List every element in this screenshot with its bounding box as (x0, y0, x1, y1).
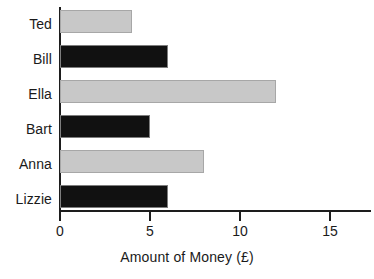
x-tick-mark-15 (329, 212, 331, 221)
category-label-lizzie: Lizzie (0, 192, 52, 206)
x-tick-mark-5 (149, 212, 151, 221)
category-label-bill: Bill (0, 52, 52, 66)
bar-bart[interactable] (60, 115, 150, 138)
bar-anna[interactable] (60, 150, 204, 173)
x-axis-line (59, 210, 371, 212)
plot-area: Ted Bill Ella Bart Anna Lizzie 0 5 (0, 0, 374, 220)
x-tick-mark-0 (59, 212, 61, 221)
category-label-ted: Ted (0, 17, 52, 31)
bar-bill[interactable] (60, 45, 168, 68)
x-tick-label-5: 5 (130, 223, 170, 239)
bar-chart: Ted Bill Ella Bart Anna Lizzie 0 5 (0, 0, 374, 279)
category-label-anna: Anna (0, 157, 52, 171)
category-label-ella: Ella (0, 87, 52, 101)
x-tick-label-15: 15 (310, 223, 350, 239)
y-axis-line (59, 7, 61, 211)
x-tick-label-0: 0 (40, 223, 80, 239)
bar-ted[interactable] (60, 10, 132, 33)
x-axis-title: Amount of Money (£) (0, 249, 374, 265)
x-tick-mark-10 (239, 212, 241, 221)
bar-ella[interactable] (60, 80, 276, 103)
x-tick-label-10: 10 (220, 223, 260, 239)
bar-lizzie[interactable] (60, 185, 168, 208)
category-label-bart: Bart (0, 122, 52, 136)
